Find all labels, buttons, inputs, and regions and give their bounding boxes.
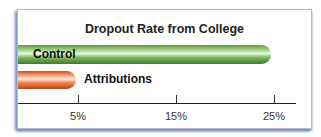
bar-attributions	[18, 71, 76, 89]
tick-25	[274, 95, 275, 103]
chart-frame: Dropout Rate from College Control Attrib…	[17, 9, 312, 129]
tick-label-15: 15%	[165, 110, 187, 122]
tick-label-5: 5%	[70, 110, 86, 122]
tick-5	[78, 95, 79, 103]
x-axis	[18, 103, 296, 104]
tick-15	[176, 95, 177, 103]
bar-label-control: Control	[33, 47, 76, 61]
chart-title: Dropout Rate from College	[18, 22, 311, 36]
bar-label-attributions: Attributions	[84, 72, 152, 86]
tick-label-25: 25%	[263, 110, 285, 122]
